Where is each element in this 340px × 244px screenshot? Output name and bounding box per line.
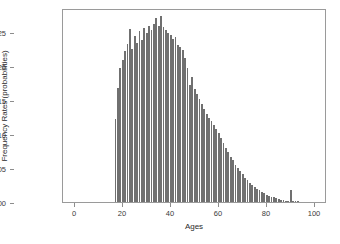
y-tick-label: 0.020 (0, 62, 6, 71)
y-tick-label: 0.025 (0, 28, 6, 37)
x-tick-label: 20 (118, 209, 126, 218)
y-tick-mark (10, 101, 14, 102)
x-tick-label: 100 (308, 209, 321, 218)
histogram-bars (63, 10, 325, 202)
y-tick-label: 0.000 (0, 199, 6, 208)
x-axis-label: Ages (185, 222, 203, 231)
y-tick-mark (10, 203, 14, 204)
histogram-bar (290, 190, 292, 202)
histogram-bar (297, 201, 299, 202)
y-tick-label: 0.005 (0, 164, 6, 173)
x-tick-label: 60 (214, 209, 222, 218)
x-tick-label: 0 (72, 209, 76, 218)
x-tick-mark (266, 203, 267, 207)
x-tick-mark (314, 203, 315, 207)
x-tick-mark (218, 203, 219, 207)
histogram-figure: Frequency Rates (probabilities) Ages 0.0… (0, 0, 340, 244)
y-tick-mark (10, 169, 14, 170)
x-tick-mark (122, 203, 123, 207)
plot-area (62, 9, 326, 203)
x-tick-mark (74, 203, 75, 207)
y-tick-mark (10, 67, 14, 68)
x-tick-label: 80 (262, 209, 270, 218)
x-tick-label: 40 (166, 209, 174, 218)
y-tick-label: 0.010 (0, 130, 6, 139)
y-tick-label: 0.015 (0, 96, 6, 105)
y-tick-mark (10, 135, 14, 136)
y-tick-mark (10, 33, 14, 34)
x-tick-mark (170, 203, 171, 207)
